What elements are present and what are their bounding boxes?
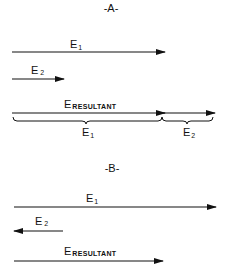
brace-a-e1: E1 [13, 117, 162, 139]
brace-a-e2: E2 [162, 117, 213, 139]
panel-a: -A- E1 E2 ERESULTANT E1 E2 [12, 2, 215, 139]
vector-a-e2: E2 [12, 64, 64, 79]
label-a-e1: E1 [70, 38, 82, 51]
vector-b-e2: E2 [14, 215, 63, 231]
label-a-resultant: ERESULTANT [64, 98, 117, 110]
vector-b-resultant: ERESULTANT [14, 245, 163, 261]
label-brace-e1: E1 [82, 126, 94, 139]
vector-addition-diagram: -A- E1 E2 ERESULTANT E1 E2 -B- [0, 0, 234, 279]
brace-icon [13, 117, 162, 124]
panel-b-title: -B- [105, 162, 120, 174]
vector-b-e1: E1 [14, 192, 216, 207]
brace-icon [162, 117, 213, 124]
label-a-e2: E2 [31, 64, 44, 76]
label-b-resultant: ERESULTANT [64, 245, 117, 257]
vector-a-resultant: ERESULTANT [12, 98, 215, 113]
label-b-e2: E2 [35, 215, 48, 227]
label-brace-e2: E2 [183, 126, 195, 139]
panel-a-title: -A- [104, 2, 119, 14]
label-b-e1: E1 [86, 192, 98, 205]
panel-b: -B- E1 E2 ERESULTANT [14, 162, 216, 261]
vector-a-e1: E1 [12, 38, 165, 52]
